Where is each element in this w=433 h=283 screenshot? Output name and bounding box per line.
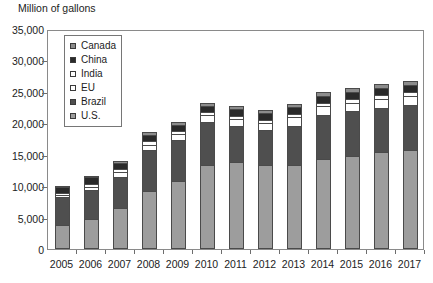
x-axis-tick-label: 2008 <box>134 258 164 270</box>
legend-item-canada[interactable]: Canada <box>68 39 117 53</box>
bar-segment-china <box>287 107 302 114</box>
bar-2007 <box>113 161 128 249</box>
bar-2016 <box>374 84 389 249</box>
legend-swatch-icon <box>70 85 76 91</box>
x-axis-tick-label: 2016 <box>366 258 396 270</box>
bar-segment-brazil <box>84 190 99 218</box>
legend-swatch-icon <box>70 57 76 63</box>
bar-segment-brazil <box>287 126 302 166</box>
y-axis-tick-label: 0 <box>0 245 44 255</box>
bar-segment-india <box>258 120 273 123</box>
bar-2005 <box>55 186 70 249</box>
bar-segment-us <box>229 162 244 249</box>
bar-segment-brazil <box>229 126 244 161</box>
legend-item-label: China <box>81 54 107 66</box>
x-axis-tick-mark <box>163 250 164 254</box>
bar-segment-china <box>316 96 331 103</box>
y-axis-tick-label: 15,000 <box>0 151 44 161</box>
legend-item-eu[interactable]: EU <box>68 81 117 95</box>
bar-segment-brazil <box>258 130 273 165</box>
chart-legend: CanadaChinaIndiaEUBrazilU.S. <box>64 35 122 127</box>
bar-segment-canada <box>229 106 244 109</box>
legend-item-label: India <box>81 68 103 80</box>
y-axis-tick-label: 35,000 <box>0 25 44 35</box>
bar-segment-canada <box>200 103 215 106</box>
bar-segment-china <box>84 177 99 183</box>
bar-segment-india <box>287 114 302 117</box>
bar-segment-eu <box>171 134 186 140</box>
bar-segment-china <box>200 106 215 112</box>
bar-segment-us <box>113 208 128 249</box>
x-axis-tick-mark <box>134 250 135 254</box>
bar-segment-eu <box>55 195 70 197</box>
legend-item-india[interactable]: India <box>68 67 117 81</box>
bar-segment-india <box>142 141 157 144</box>
x-axis-tick-mark <box>250 250 251 254</box>
x-axis-tick-mark <box>337 250 338 254</box>
bar-segment-us <box>84 219 99 249</box>
bar-segment-india <box>200 112 215 115</box>
bar-2009 <box>171 122 186 249</box>
bar-segment-china <box>171 125 186 131</box>
bar-segment-eu <box>258 123 273 130</box>
bar-segment-india <box>84 184 99 187</box>
legend-item-us[interactable]: U.S. <box>68 109 117 123</box>
x-axis-tick-label: 2013 <box>279 258 309 270</box>
x-axis-tick-mark <box>366 250 367 254</box>
x-axis-tick-label: 2014 <box>308 258 338 270</box>
bar-2012 <box>258 110 273 249</box>
x-axis-tick-label: 2015 <box>337 258 367 270</box>
bar-segment-brazil <box>113 177 128 208</box>
x-axis-tick-label: 2005 <box>47 258 77 270</box>
bar-segment-us <box>403 150 418 249</box>
legend-swatch-icon <box>70 113 76 119</box>
bar-segment-eu <box>403 96 418 105</box>
x-axis-tick-mark <box>76 250 77 254</box>
bar-2015 <box>345 88 360 249</box>
bar-segment-brazil <box>171 140 186 181</box>
bar-segment-canada <box>113 161 128 163</box>
bar-segment-us <box>345 156 360 249</box>
x-axis-tick-label: 2011 <box>221 258 251 270</box>
legend-item-label: Brazil <box>81 96 106 108</box>
bar-segment-india <box>345 99 360 103</box>
bar-segment-us <box>55 225 70 250</box>
bar-2017 <box>403 81 418 249</box>
x-axis-tick-mark <box>424 250 425 254</box>
y-axis-tick-label: 20,000 <box>0 119 44 129</box>
bar-segment-brazil <box>403 105 418 150</box>
bar-segment-us <box>374 152 389 249</box>
x-axis-tick-mark <box>192 250 193 254</box>
bar-segment-brazil <box>374 108 389 153</box>
bar-segment-china <box>345 92 360 99</box>
bar-segment-india <box>403 92 418 96</box>
y-axis-tick-label: 10,000 <box>0 182 44 192</box>
bar-segment-china <box>142 135 157 141</box>
bar-segment-india <box>374 95 389 99</box>
bar-segment-india <box>113 169 128 172</box>
bar-segment-india <box>55 193 70 195</box>
bar-segment-india <box>316 103 331 107</box>
y-axis-tick-label: 30,000 <box>0 56 44 66</box>
x-axis-tick-mark <box>279 250 280 254</box>
bar-segment-us <box>171 181 186 249</box>
bar-2006 <box>84 176 99 249</box>
bar-segment-canada <box>142 132 157 135</box>
x-axis-tick-label: 2007 <box>105 258 135 270</box>
bar-segment-brazil <box>142 150 157 191</box>
bar-segment-canada <box>287 104 302 107</box>
x-axis-tick-label: 2017 <box>395 258 425 270</box>
legend-item-brazil[interactable]: Brazil <box>68 95 117 109</box>
bar-2013 <box>287 104 302 249</box>
bar-segment-us <box>200 165 215 249</box>
x-axis-tick-mark <box>308 250 309 254</box>
legend-item-label: EU <box>81 82 95 94</box>
legend-item-china[interactable]: China <box>68 53 117 67</box>
bar-segment-brazil <box>200 122 215 165</box>
stacked-bar-chart: Million of gallons 05,00010,00015,00020,… <box>0 0 433 283</box>
legend-swatch-icon <box>70 43 76 49</box>
x-axis-tick-label: 2012 <box>250 258 280 270</box>
bar-segment-china <box>374 88 389 95</box>
x-axis-tick-label: 2009 <box>163 258 193 270</box>
bar-segment-eu <box>374 99 389 108</box>
